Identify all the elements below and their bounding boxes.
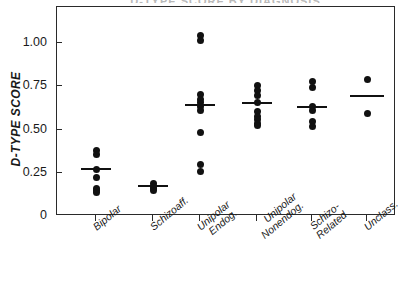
y-tick-label-4: 1.00 <box>0 35 56 49</box>
data-point <box>254 122 261 129</box>
data-point <box>309 123 316 130</box>
data-point <box>93 151 100 158</box>
data-point <box>364 76 371 83</box>
data-point <box>309 107 316 114</box>
y-tick-mark-2 <box>56 129 62 130</box>
y-tick-label-1: 0.25 <box>0 165 56 179</box>
data-point <box>364 110 371 117</box>
y-tick-label-0: 0 <box>0 208 56 222</box>
y-tick-mark-4 <box>56 42 62 43</box>
plot-frame <box>56 6 395 215</box>
data-point <box>93 174 100 181</box>
data-point <box>197 168 204 175</box>
y-axis-label: D-TYPE SCORE <box>9 59 23 179</box>
y-tick-label-3: 0.75 <box>0 78 56 92</box>
group-mean-bar <box>242 102 272 104</box>
y-tick-mark-3 <box>56 85 62 86</box>
data-point <box>93 189 100 196</box>
group-mean-bar <box>138 185 168 187</box>
figure-root: D-TYPE SCORE BY DIAGNOSIS D-TYPE SCORE 0… <box>0 0 403 282</box>
group-mean-bar <box>185 104 215 106</box>
group-mean-bar <box>297 106 327 108</box>
data-point <box>197 161 204 168</box>
plot-area <box>57 7 394 214</box>
clipped-chart-title: D-TYPE SCORE BY DIAGNOSIS <box>56 0 395 3</box>
data-point <box>197 129 204 136</box>
group-mean-bar <box>81 168 111 170</box>
group-mean-bar <box>350 95 384 97</box>
data-point <box>197 107 204 114</box>
y-tick-label-2: 0.50 <box>0 122 56 136</box>
data-point <box>309 84 316 91</box>
y-tick-mark-1 <box>56 172 62 173</box>
data-point <box>197 37 204 44</box>
data-point <box>150 187 157 194</box>
